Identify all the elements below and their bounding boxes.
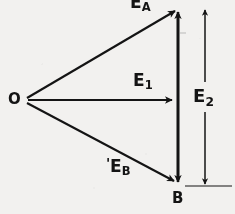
vector-label-e1-base: E: [133, 70, 145, 90]
vector-label-ea: EA: [130, 0, 151, 11]
vector-label-e1: E1: [133, 72, 153, 89]
vector-diagram-canvas: [0, 0, 235, 214]
vector-label-ea-sub: A: [142, 0, 151, 14]
vector-label-ea-base: E: [130, 0, 142, 12]
vector-label-eb-sub: B: [122, 164, 131, 178]
vector-eb-line: [27, 103, 174, 181]
dimension-label-e2-sub: 2: [205, 95, 214, 109]
vector-label-eb: EB: [110, 158, 130, 175]
point-label-o: O: [8, 92, 21, 107]
dimension-label-e2: E2: [193, 87, 214, 105]
vector-label-e1-sub: 1: [145, 78, 153, 92]
vector-label-eb-base: E: [110, 156, 122, 176]
dimension-label-e2-base: E: [193, 85, 205, 106]
point-label-b: B: [172, 191, 183, 206]
